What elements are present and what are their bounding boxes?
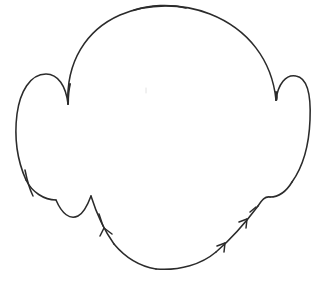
canvas-background (0, 0, 324, 287)
right-jaw-barb-b (224, 243, 225, 252)
head-outline-drawing (0, 0, 324, 287)
right-jaw-barb-d (246, 219, 247, 228)
sketch-canvas (0, 0, 324, 287)
right-temple-accent-path (276, 92, 277, 100)
